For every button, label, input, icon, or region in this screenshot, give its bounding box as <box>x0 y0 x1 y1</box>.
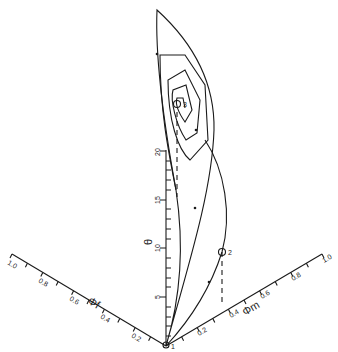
phi-m-axis-label: Φm <box>240 298 262 317</box>
point-label-1: 1 <box>171 343 175 350</box>
phi-f-tick-10: 1.0 <box>7 259 19 270</box>
phi-f-ticks <box>10 254 151 341</box>
phi-f-tick-02: 0.2 <box>131 332 143 343</box>
point-label-3: 3 <box>183 101 187 108</box>
phi-f-axis-label: Φf <box>86 294 103 311</box>
direction-arrow <box>156 53 159 56</box>
theta-tick-10: 10 <box>154 244 161 252</box>
theta-tick-5: 5 <box>154 295 161 299</box>
phi-m-tick-04: 0.4 <box>228 308 240 319</box>
direction-arrow <box>208 281 211 284</box>
theta-tick-20: 20 <box>154 148 161 156</box>
phi-m-tick-08: 0.8 <box>290 271 302 282</box>
point-label-2: 2 <box>228 249 232 256</box>
phi-f-tick-06: 0.6 <box>69 295 81 306</box>
phi-f-tick-04: 0.4 <box>100 313 112 324</box>
theta-axis-label: θ <box>142 239 154 245</box>
theta-tick-15: 15 <box>154 196 161 204</box>
phi-f-tick-08: 0.8 <box>38 277 50 288</box>
phase-plot: 5 10 15 20 0.2 0.4 0.6 0.8 1.0 0.2 0.4 0… <box>0 0 338 352</box>
direction-arrow <box>194 207 197 210</box>
direction-arrow <box>195 129 198 132</box>
outer-trajectory <box>157 10 214 346</box>
